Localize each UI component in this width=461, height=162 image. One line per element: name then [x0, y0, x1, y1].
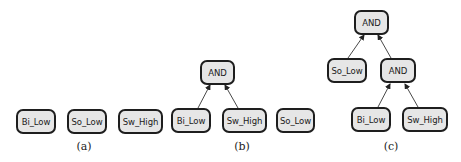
node-label: Sw_High [227, 116, 262, 126]
node-label: AND [208, 68, 226, 78]
node-b-so-low: So_Low [276, 108, 315, 133]
node-c-sw-high: Sw_High [402, 107, 448, 132]
node-c-so-low: So_Low [327, 58, 367, 83]
caption-a: (a) [76, 140, 91, 153]
node-label: Bi_Low [22, 117, 51, 127]
edge-c-bilow-to-and-mid [378, 84, 390, 107]
node-label: So_Low [72, 117, 103, 127]
edge-c-and-mid-to-and-top [378, 35, 391, 58]
node-label: AND [389, 66, 407, 76]
node-a-bi-low: Bi_Low [16, 109, 56, 134]
edge-c-swhigh-to-and-mid [405, 84, 418, 107]
node-b-sw-high: Sw_High [222, 108, 267, 133]
edge-c-solow-to-and-top [348, 35, 364, 58]
node-label: Sw_High [407, 115, 442, 125]
node-c-and-middle: AND [380, 58, 416, 83]
node-b-bi-low: Bi_Low [171, 108, 211, 133]
node-label: Bi_Low [177, 116, 206, 126]
caption-c: (c) [384, 140, 399, 153]
node-c-and-top: AND [354, 10, 389, 35]
figure-canvas: Bi_Low So_Low Sw_High (a) AND Bi_Low Sw_… [0, 0, 461, 162]
node-a-sw-high: Sw_High [118, 109, 163, 134]
node-c-bi-low: Bi_Low [351, 107, 391, 132]
node-label: So_Low [332, 66, 363, 76]
edge-b-swhigh-to-and [225, 85, 238, 108]
node-label: Bi_Low [357, 115, 386, 125]
node-a-so-low: So_Low [67, 109, 107, 134]
node-label: AND [362, 18, 380, 28]
node-label: Sw_High [123, 117, 158, 127]
node-label: So_Low [280, 116, 311, 126]
node-b-and: AND [200, 60, 235, 85]
edge-b-bilow-to-and [198, 85, 210, 108]
caption-b: (b) [234, 140, 250, 153]
